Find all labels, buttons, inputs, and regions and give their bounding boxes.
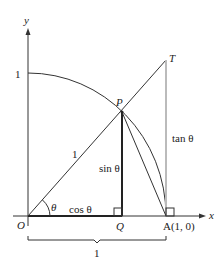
brace-OA [28, 236, 166, 243]
point-label-P: P [115, 96, 123, 108]
point-label-A: A(1, 0) [163, 220, 195, 233]
x-axis-arrow-icon [199, 214, 206, 219]
cos-label: cos θ [69, 203, 92, 215]
brace-label: 1 [94, 247, 100, 259]
point-label-O: O [17, 219, 25, 231]
radius-label: 1 [72, 148, 78, 160]
sin-label: sin θ [99, 162, 120, 174]
right-angle-marker-Q [114, 208, 122, 216]
unit-circle-arc [28, 73, 166, 216]
y-axis-label: y [23, 14, 29, 26]
unit-circle-diagram: y 1 x O P Q A(1, 0) T 1 θ cos θ sin θ ta… [0, 0, 223, 266]
angle-label: θ [51, 201, 57, 213]
chord-PA [122, 112, 166, 216]
angle-arc-icon [43, 200, 51, 216]
radius-line-OT [28, 60, 166, 216]
point-label-Q: Q [116, 220, 124, 232]
x-axis-label: x [208, 209, 214, 221]
y-axis-arrow-icon [26, 28, 31, 35]
point-label-T: T [169, 52, 176, 64]
tan-label: tan θ [172, 132, 193, 144]
right-angle-marker-A [166, 208, 174, 216]
y-axis: y 1 [15, 14, 31, 226]
point-P-dot [121, 111, 124, 114]
y-tick-label: 1 [15, 68, 21, 80]
